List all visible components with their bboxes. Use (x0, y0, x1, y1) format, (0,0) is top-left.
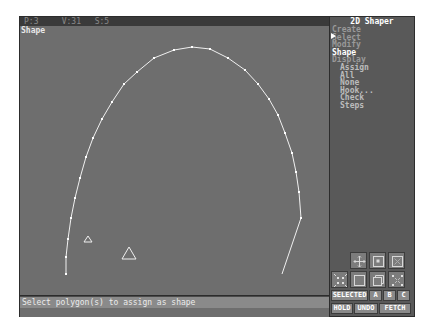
status-counters: P:3 V:31 S:5 (20, 17, 329, 26)
small-triangle-polygon[interactable] (84, 236, 92, 242)
polygon-count: P:3 (24, 17, 38, 26)
submenu-item-steps[interactable]: Steps (332, 102, 374, 110)
zoom-extents-all-icon (332, 272, 349, 289)
zoom-window-button[interactable] (369, 252, 386, 269)
zoom-out-button[interactable] (388, 271, 405, 288)
full-screen-icon (351, 272, 368, 289)
zoom-window-icon (370, 253, 387, 270)
vertex-markers (65, 46, 302, 275)
shape-canvas[interactable] (20, 26, 329, 295)
pan-button[interactable] (350, 252, 367, 269)
pan-icon (351, 253, 368, 270)
zoom-extents-icon (389, 253, 406, 270)
selected-button[interactable]: SELECTED (331, 290, 368, 301)
prompt-line: Select polygon(s) to assign as shape (20, 296, 329, 308)
undo-button[interactable]: UNDO (354, 303, 378, 314)
prompt-area (20, 308, 329, 317)
hold-button[interactable]: HOLD (331, 303, 353, 314)
vertex-count: V:31 (62, 17, 81, 26)
full-screen-button[interactable] (350, 271, 367, 288)
shape-count: S:5 (95, 17, 109, 26)
arch-polygon[interactable] (66, 47, 301, 274)
mouse-cursor-icon (331, 33, 336, 39)
select-c-button[interactable]: C (397, 290, 410, 301)
command-menu: Create Select Modify Shape Display Assig… (332, 26, 374, 110)
fetch-button[interactable]: FETCH (379, 303, 411, 314)
zoom-all-button[interactable] (369, 271, 386, 288)
zoom-extents-all-button[interactable] (331, 271, 348, 288)
select-b-button[interactable]: B (383, 290, 396, 301)
zoom-all-icon (370, 272, 387, 289)
zoom-out-icon (389, 272, 406, 289)
select-a-button[interactable]: A (369, 290, 382, 301)
zoom-extents-button[interactable] (388, 252, 405, 269)
large-triangle-polygon[interactable] (122, 247, 136, 259)
